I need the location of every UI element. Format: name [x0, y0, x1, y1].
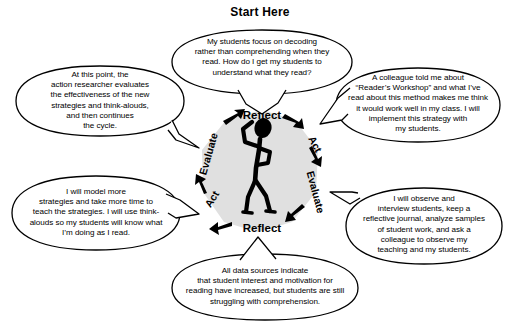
cycle-label-reflect-bottom: Reflect [243, 222, 282, 234]
bubble-text-left-upper-evaluate: At this point, the action researcher eva… [16, 70, 184, 131]
bubble-text-bottom-reflect: All data sources indicate that student i… [170, 266, 360, 307]
bubble-text-top-question: My students focus on decoding rather tha… [172, 37, 352, 78]
action-research-cycle-diagram: Start Here [0, 0, 520, 324]
bubble-text-right-lower-evaluate: I will observe and interview students, k… [346, 194, 502, 255]
bubble-text-left-lower-act: I will model more strategies and take mo… [10, 187, 182, 238]
bubble-text-right-upper-act: A colleague told me about “Reader’s Work… [334, 73, 502, 134]
